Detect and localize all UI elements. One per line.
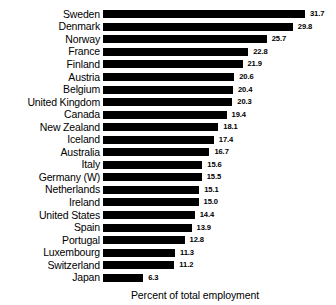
bar-row: Ireland15.0 [0, 196, 336, 209]
category-label: Ireland [0, 197, 100, 208]
bar-row: Portugal12.8 [0, 234, 336, 247]
bar [103, 211, 195, 219]
category-label: Sweden [0, 9, 100, 20]
category-label: United States [0, 210, 100, 221]
bar-row: Japan6.3 [0, 271, 336, 284]
bar-track: 12.8 [103, 234, 336, 247]
bar-row: Denmark29.8 [0, 21, 336, 34]
bar [103, 48, 248, 56]
bar-row: Canada19.4 [0, 108, 336, 121]
bar-track: 15.6 [103, 159, 336, 172]
bar-value-label: 25.7 [272, 35, 286, 43]
bar-row: Australia16.7 [0, 146, 336, 159]
bar-value-label: 15.0 [204, 198, 218, 206]
bar [103, 261, 174, 269]
bar-row: Norway25.7 [0, 33, 336, 46]
bar [103, 60, 243, 68]
bar-track: 15.1 [103, 184, 336, 197]
bar-track: 21.9 [103, 58, 336, 71]
bar-value-label: 11.3 [180, 249, 194, 257]
bar-value-label: 14.4 [200, 211, 214, 219]
bar [103, 136, 214, 144]
bar-row: Belgium20.4 [0, 83, 336, 96]
bar-row: Sweden31.7 [0, 8, 336, 21]
bar-row: Austria20.6 [0, 71, 336, 84]
bar-track: 20.6 [103, 71, 336, 84]
bar-value-label: 21.9 [248, 60, 262, 68]
bar-track: 14.4 [103, 209, 336, 222]
bar-track: 6.3 [103, 271, 336, 284]
category-label: Australia [0, 147, 100, 158]
category-label: Italy [0, 159, 100, 170]
category-label: France [0, 46, 100, 57]
bar-value-label: 29.8 [298, 23, 312, 31]
bar-row: Iceland17.4 [0, 133, 336, 146]
bar [103, 236, 185, 244]
bar-value-label: 12.8 [190, 236, 204, 244]
category-label: Spain [0, 222, 100, 233]
bar-track: 15.5 [103, 171, 336, 184]
category-label: New Zealand [0, 122, 100, 133]
category-label: Portugal [0, 235, 100, 246]
bar [103, 111, 227, 119]
bar [103, 73, 234, 81]
bar [103, 173, 202, 181]
bar-track: 11.2 [103, 259, 336, 272]
bar [103, 198, 199, 206]
bar-value-label: 19.4 [232, 111, 246, 119]
bar-value-label: 20.4 [238, 86, 252, 94]
bar-row: New Zealand18.1 [0, 121, 336, 134]
bar-value-label: 17.4 [219, 136, 233, 144]
bar-value-label: 15.5 [207, 173, 221, 181]
bar-track: 22.8 [103, 46, 336, 59]
cropped-title-sliver [60, 0, 180, 3]
bar-value-label: 11.2 [179, 261, 193, 269]
bar [103, 249, 175, 257]
bar-row: Netherlands15.1 [0, 184, 336, 197]
bar [103, 186, 199, 194]
bar-value-label: 31.7 [310, 10, 324, 18]
bar [103, 224, 192, 232]
chart-plot-area: Sweden31.7Denmark29.8Norway25.7France22.… [0, 8, 336, 284]
bar-value-label: 18.1 [223, 123, 237, 131]
bar-track: 25.7 [103, 33, 336, 46]
bar-value-label: 16.7 [214, 148, 228, 156]
x-axis-caption: Percent of total employment [0, 289, 336, 301]
bar [103, 10, 305, 18]
category-label: Belgium [0, 84, 100, 95]
bar-track: 20.3 [103, 96, 336, 109]
bar-track: 16.7 [103, 146, 336, 159]
bar-row: United States14.4 [0, 209, 336, 222]
bar-value-label: 15.6 [207, 161, 221, 169]
bar [103, 148, 209, 156]
category-label: Canada [0, 109, 100, 120]
bar-value-label: 20.6 [239, 73, 253, 81]
category-label: Switzerland [0, 260, 100, 271]
bar-row: United Kingdom20.3 [0, 96, 336, 109]
bar-track: 19.4 [103, 108, 336, 121]
bar-row: Finland21.9 [0, 58, 336, 71]
bar [103, 86, 233, 94]
bar [103, 123, 218, 131]
bar [103, 35, 267, 43]
category-label: Austria [0, 72, 100, 83]
bar [103, 161, 202, 169]
bar-value-label: 20.3 [237, 98, 251, 106]
bar-row: Germany (W)15.5 [0, 171, 336, 184]
category-label: Netherlands [0, 184, 100, 195]
bar [103, 98, 232, 106]
bar-row: Switzerland11.2 [0, 259, 336, 272]
bar-row: Italy15.6 [0, 159, 336, 172]
bar-track: 18.1 [103, 121, 336, 134]
bar-track: 29.8 [103, 21, 336, 34]
bar-value-label: 13.9 [197, 224, 211, 232]
bar-value-label: 15.1 [204, 186, 218, 194]
category-label: Germany (W) [0, 172, 100, 183]
bar [103, 23, 293, 31]
category-label: Iceland [0, 134, 100, 145]
bar-track: 15.0 [103, 196, 336, 209]
bar-value-label: 6.3 [148, 274, 158, 282]
bar-row: Luxembourg11.3 [0, 246, 336, 259]
bar [103, 274, 143, 282]
bar-track: 13.9 [103, 221, 336, 234]
